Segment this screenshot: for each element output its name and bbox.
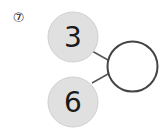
answer-circle[interactable] (108, 42, 158, 92)
part-circle-top: 3 (48, 12, 98, 62)
part-circle-bottom: 6 (48, 77, 98, 127)
connector-line-bottom (92, 74, 108, 83)
connector-line-top (92, 51, 108, 60)
top-value: 3 (64, 21, 82, 54)
number-bond-diagram: ⑦ 3 6 (0, 0, 168, 134)
bottom-value: 6 (64, 86, 82, 119)
problem-number-label: ⑦ (13, 10, 25, 25)
